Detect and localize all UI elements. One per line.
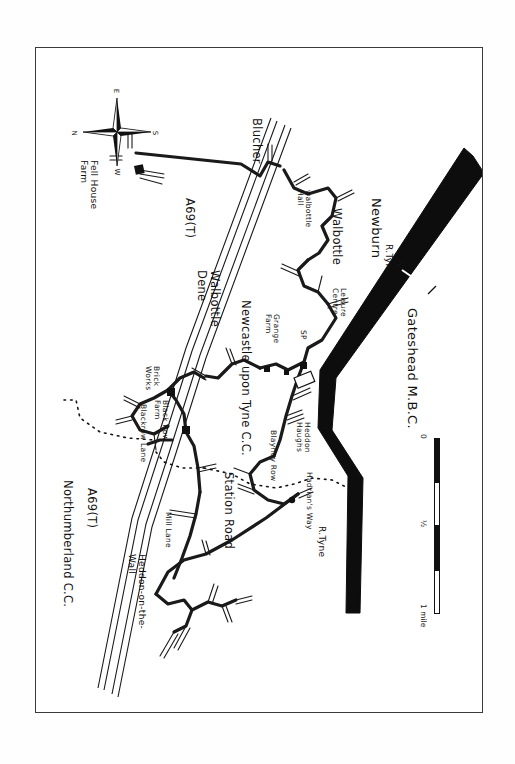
scale-label-zero: 0 — [419, 434, 428, 439]
compass-label-north: N — [70, 130, 78, 135]
label-newcastle-upon-tyne-cc: Newcastle upon Tyne C.C. — [240, 300, 252, 456]
map-frame-border: Fell House Farm Blucher A69(T) A69(T) wa… — [35, 47, 483, 713]
label-black-row-farm: Black Row Farm — [152, 400, 169, 441]
label-blucher: Blucher — [251, 118, 263, 164]
label-brick-works: Brick Works — [143, 366, 160, 390]
label-a69-bottom: A69(T) — [86, 488, 98, 528]
label-hadrians-way: Hadrian's Way — [305, 472, 313, 530]
scale-label-one-mile: 1 mile — [419, 604, 428, 627]
label-northumberland-cc: Northumberland C.C. — [62, 480, 74, 607]
label-r-tyne-lower: R.Tyne — [317, 526, 326, 557]
label-leisure-centre: Leisure Centre — [330, 288, 347, 317]
label-newburn: Newburn — [369, 198, 383, 258]
scale-seg-1 — [434, 438, 440, 482]
scale-seg-4 — [434, 570, 440, 614]
label-heddon-haughs: Heddon Haughs — [294, 422, 311, 453]
label-grange-farm: Grange Farm — [263, 314, 280, 343]
label-walbottle: Walbottle — [331, 208, 343, 265]
label-blackrow-lane: Blackrow Lane — [139, 404, 147, 462]
compass-rose: E W N S — [81, 96, 153, 168]
label-gateshead-mbc: Gateshead M.B.C. — [405, 308, 419, 429]
scale-seg-2 — [434, 482, 440, 526]
label-heddon-on-the-wall: Heddon-on-the- Wall — [127, 554, 147, 629]
label-blayney-row: Blayney Row — [269, 430, 277, 481]
compass-label-west: W — [113, 169, 121, 176]
map-page: Fell House Farm Blucher A69(T) A69(T) wa… — [0, 0, 515, 764]
label-station-road: Station Road — [223, 472, 235, 549]
scale-label-half: ½ — [419, 520, 428, 527]
label-r-tyne-upper: R.Tyne — [384, 244, 393, 275]
compass-star-icon — [81, 96, 153, 168]
leisure-centre-building — [294, 371, 315, 388]
label-walbottle-hall: walbottle Hall — [295, 190, 312, 227]
label-a69-top: A69(T) — [184, 198, 196, 238]
label-walbottle-dene: Walbottle Dene — [195, 270, 221, 327]
label-sp: SP — [299, 330, 307, 340]
compass-label-east: E — [112, 89, 120, 93]
scale-bar: 0 ½ 1 mile — [424, 438, 450, 614]
scale-seg-3 — [434, 526, 440, 570]
compass-label-south: S — [151, 131, 159, 135]
label-mill-lane: Mill Lane — [164, 512, 172, 548]
